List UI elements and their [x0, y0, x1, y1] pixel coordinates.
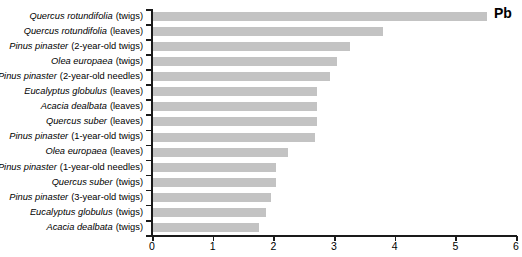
category-label: Olea europaea(twigs)	[0, 54, 146, 69]
bar-row	[152, 9, 516, 24]
y-axis-tick	[146, 39, 152, 41]
tissue-name: (1-year-old twigs)	[71, 132, 143, 141]
species-name: Pinus pinaster	[0, 163, 57, 172]
bar-chart: Quercus rotundifolia(twigs)Quercus rotun…	[0, 0, 522, 257]
bar-row	[152, 114, 516, 129]
y-axis-tick	[146, 205, 152, 207]
category-label: Pinus pinaster(2-year-old twigs)	[0, 39, 146, 54]
y-axis-tick	[146, 9, 152, 11]
y-axis-line	[151, 9, 153, 236]
category-label: Quercus rotundifolia(twigs)	[0, 9, 146, 24]
category-label: Acacia dealbata(twigs)	[0, 220, 146, 235]
tissue-name: (leaves)	[110, 87, 143, 96]
x-axis-tick-label: 6	[513, 241, 519, 253]
species-name: Olea europaea	[51, 57, 113, 66]
category-label: Pinus pinaster(3-year-old twigs)	[0, 190, 146, 205]
bar	[152, 117, 317, 126]
species-name: Quercus rotundifolia	[29, 12, 112, 21]
species-name: Eucalyptus globulus	[30, 208, 113, 217]
species-name: Eucalyptus globulus	[24, 87, 107, 96]
y-axis-tick	[146, 99, 152, 101]
bar-row	[152, 54, 516, 69]
y-axis-tick	[146, 160, 152, 162]
bar	[152, 163, 276, 172]
bar	[152, 193, 271, 202]
x-axis-tick-label: 1	[210, 241, 216, 253]
species-name: Acacia dealbata	[41, 102, 107, 111]
bar	[152, 27, 383, 36]
series-annotation-label: Pb	[494, 5, 512, 21]
category-label: Acacia dealbata(leaves)	[0, 99, 146, 114]
species-name: Pinus pinaster	[9, 132, 68, 141]
bar-row	[152, 145, 516, 160]
category-label: Eucalyptus globulus(twigs)	[0, 205, 146, 220]
y-axis-tick	[146, 69, 152, 71]
bar-row	[152, 84, 516, 99]
species-name: Quercus rotundifolia	[24, 27, 107, 36]
tissue-name: (leaves)	[110, 27, 143, 36]
species-name: Pinus pinaster	[0, 72, 57, 81]
y-axis-tick	[146, 54, 152, 56]
category-axis-labels: Quercus rotundifolia(twigs)Quercus rotun…	[0, 9, 146, 235]
bar-row	[152, 220, 516, 235]
y-axis-tick	[146, 130, 152, 132]
species-name: Olea europaea	[45, 147, 107, 156]
y-axis-tick	[146, 175, 152, 177]
bar	[152, 102, 317, 111]
tissue-name: (1-year-old needles)	[60, 163, 143, 172]
bar-series	[152, 9, 516, 235]
category-label: Pinus pinaster(1-year-old twigs)	[0, 130, 146, 145]
tissue-name: (leaves)	[110, 147, 143, 156]
tissue-name: (leaves)	[110, 102, 143, 111]
bar-row	[152, 205, 516, 220]
bar-row	[152, 99, 516, 114]
tissue-name: (twigs)	[116, 12, 143, 21]
x-axis-tick-label: 3	[331, 241, 337, 253]
category-label: Pinus pinaster(2-year-old needles)	[0, 69, 146, 84]
y-axis-tick	[146, 24, 152, 26]
bar	[152, 178, 276, 187]
bar	[152, 148, 288, 157]
bar	[152, 12, 487, 21]
tissue-name: (2-year-old twigs)	[71, 42, 143, 51]
x-axis-tick-label: 2	[270, 241, 276, 253]
tissue-name: (twigs)	[116, 223, 143, 232]
category-label: Quercus suber(twigs)	[0, 175, 146, 190]
bar	[152, 208, 266, 217]
bar	[152, 72, 330, 81]
bar	[152, 42, 350, 51]
bar-row	[152, 175, 516, 190]
y-axis-tick	[146, 84, 152, 86]
y-axis-tick	[146, 145, 152, 147]
bar-row	[152, 190, 516, 205]
tissue-name: (twigs)	[116, 208, 143, 217]
species-name: Pinus pinaster	[9, 193, 68, 202]
bar	[152, 223, 259, 232]
bar-row	[152, 69, 516, 84]
x-axis-tick-label: 0	[149, 241, 155, 253]
bar-row	[152, 24, 516, 39]
species-name: Quercus suber	[52, 178, 113, 187]
plot-area	[152, 9, 516, 235]
y-axis-tick	[146, 114, 152, 116]
tissue-name: (2-year-old needles)	[60, 72, 143, 81]
species-name: Quercus suber	[46, 117, 107, 126]
tissue-name: (leaves)	[110, 117, 143, 126]
species-name: Acacia dealbata	[46, 223, 112, 232]
tissue-name: (3-year-old twigs)	[71, 193, 143, 202]
bar	[152, 57, 337, 66]
bar-row	[152, 39, 516, 54]
category-label: Quercus suber(leaves)	[0, 114, 146, 129]
bar	[152, 133, 315, 142]
category-label: Quercus rotundifolia(leaves)	[0, 24, 146, 39]
species-name: Pinus pinaster	[9, 42, 68, 51]
category-label: Eucalyptus globulus(leaves)	[0, 84, 146, 99]
category-label: Pinus pinaster(1-year-old needles)	[0, 160, 146, 175]
tissue-name: (twigs)	[116, 57, 143, 66]
bar-row	[152, 130, 516, 145]
x-axis-tick-label: 5	[452, 241, 458, 253]
y-axis-tick	[146, 190, 152, 192]
y-axis-tick	[146, 220, 152, 222]
bar-row	[152, 160, 516, 175]
tissue-name: (twigs)	[116, 178, 143, 187]
